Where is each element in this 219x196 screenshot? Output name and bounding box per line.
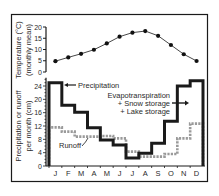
temperature-point bbox=[169, 43, 173, 47]
precip-ylabel-line2: per month (cm) bbox=[24, 100, 33, 151]
temperature-tick-label: 5 bbox=[38, 57, 42, 64]
temperature-point bbox=[117, 35, 121, 39]
temperature-point bbox=[194, 59, 198, 63]
precipitation-tick-label: 20 bbox=[34, 96, 42, 103]
month-label: S bbox=[156, 169, 161, 178]
month-label: J bbox=[131, 169, 135, 178]
climate-chart: Temperature (°C) (monthly mean) 05101520… bbox=[0, 0, 219, 196]
month-label: N bbox=[181, 169, 186, 178]
month-label: F bbox=[66, 169, 71, 178]
month-label: M bbox=[104, 169, 110, 178]
temperature-point bbox=[156, 34, 160, 38]
temperature-tick-label: 15 bbox=[34, 35, 42, 42]
temperature-tick-label: 0 bbox=[38, 69, 42, 76]
month-label: A bbox=[143, 169, 148, 178]
month-label: J bbox=[118, 169, 122, 178]
temperature-tick-label: 10 bbox=[34, 46, 42, 53]
month-label: J bbox=[54, 169, 58, 178]
precipitation-tick-label: 12 bbox=[34, 123, 42, 130]
precipitation-tick-label: 16 bbox=[34, 109, 42, 116]
precipitation-tick-label: 4 bbox=[38, 149, 42, 156]
temperature-point bbox=[66, 55, 70, 59]
temperature-point bbox=[79, 52, 83, 56]
precipitation-label: Precipitation bbox=[78, 81, 119, 90]
temperature-point bbox=[143, 29, 147, 33]
runoff-label: Runoff bbox=[59, 141, 82, 150]
precipitation-tick-label: 8 bbox=[38, 136, 42, 143]
temperature-point bbox=[53, 59, 57, 63]
temperature-ylabel-line2: (monthly mean) bbox=[24, 23, 33, 76]
evapotranspiration-label-line3: + Lake storage bbox=[120, 107, 170, 116]
precipitation-tick-label: 24 bbox=[34, 83, 42, 90]
precip-ylabel-line1: Precipitation or runoff bbox=[14, 90, 23, 162]
temperature-tick-label: 20 bbox=[34, 24, 42, 31]
precipitation-tick-label: 0 bbox=[38, 163, 42, 170]
temperature-point bbox=[130, 31, 134, 35]
temperature-ylabel-line1: Temperature (°C) bbox=[14, 21, 23, 79]
month-label: O bbox=[168, 169, 174, 178]
temperature-point bbox=[105, 41, 109, 45]
month-label: D bbox=[194, 169, 200, 178]
month-label: M bbox=[78, 169, 84, 178]
temperature-point bbox=[182, 52, 186, 56]
month-label: A bbox=[91, 169, 96, 178]
temperature-point bbox=[92, 48, 96, 52]
